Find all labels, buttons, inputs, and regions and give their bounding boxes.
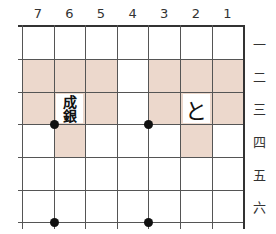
grid-line — [22, 25, 23, 229]
rank-label-5: 五 — [248, 165, 270, 184]
shaded-cell-5-2 — [85, 59, 117, 92]
file-label-2: 2 — [180, 6, 212, 21]
grid-line — [18, 157, 243, 158]
star-point-dot — [50, 120, 59, 129]
rank-label-6: 六 — [248, 197, 270, 216]
grid-line — [180, 25, 181, 229]
rank-label-1: 一 — [248, 34, 270, 53]
grid-line — [18, 190, 243, 191]
file-label-1: 1 — [212, 6, 244, 21]
file-label-6: 6 — [54, 6, 86, 21]
rank-label-4: 四 — [248, 132, 270, 151]
file-label-5: 5 — [85, 6, 117, 21]
shaded-cell-7-2 — [22, 59, 54, 92]
shaded-cell-1-2 — [212, 59, 244, 92]
star-point-dot — [144, 218, 153, 227]
board-right-border — [243, 25, 245, 229]
file-label-7: 7 — [22, 6, 54, 21]
rank-label-3: 三 — [248, 99, 270, 118]
shaded-cell-5-3 — [85, 92, 117, 125]
shaded-cell-6-4 — [54, 124, 86, 157]
grid-line — [117, 25, 118, 229]
shaded-cell-6-2 — [54, 59, 86, 92]
file-label-4: 4 — [117, 6, 149, 21]
piece-narigin-6-3: 成 銀 — [56, 94, 83, 123]
piece-tokin-2-3: と — [183, 94, 210, 123]
shaded-cell-2-2 — [180, 59, 212, 92]
star-point-dot — [50, 218, 59, 227]
shaded-cell-2-4 — [180, 124, 212, 157]
piece-char: 銀 — [63, 109, 77, 123]
star-point-dot — [144, 120, 153, 129]
rank-label-2: 二 — [248, 67, 270, 86]
shogi-board-diagram: 7 6 5 4 3 2 1 一 二 三 四 五 六 成 銀 と — [0, 0, 276, 234]
shaded-cell-3-2 — [148, 59, 180, 92]
grid-line — [18, 59, 243, 60]
shaded-cell-3-3 — [148, 92, 180, 125]
shaded-cell-1-3 — [212, 92, 244, 125]
piece-char: 成 — [63, 95, 77, 109]
grid-line — [85, 25, 86, 229]
shaded-cell-7-3 — [22, 92, 54, 125]
grid-line — [212, 25, 213, 229]
file-label-3: 3 — [148, 6, 180, 21]
grid-line — [18, 92, 243, 93]
